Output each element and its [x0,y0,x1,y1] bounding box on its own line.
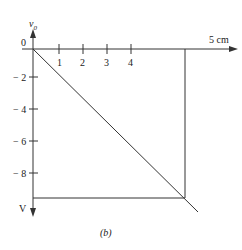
potential-line [33,49,198,212]
figure-caption: (b) [100,227,112,239]
y-tick-label--4: − 4 [13,104,26,115]
x-axis-end-label: 5 cm [209,34,229,45]
x-tick-label-3: 3 [104,57,109,68]
potential-diagram: v0 0 − 2 − 4 − 6 − 8 V 1 2 3 4 5 cm (b) [0,0,242,250]
y-tick-label--8: − 8 [13,168,26,179]
y-tick-label--6: − 6 [13,136,26,147]
y-tick-label-0: 0 [21,37,26,48]
y-axis-label: v0 [29,18,37,32]
y-axis-down-arrow-icon [30,208,36,217]
x-tick-label-2: 2 [80,57,85,68]
x-tick-label-4: 4 [128,57,133,68]
y-axis-unit: V [19,203,27,214]
x-axis-arrow-icon [229,46,238,52]
y-tick-label--2: − 2 [13,72,26,83]
x-tick-label-1: 1 [57,57,62,68]
